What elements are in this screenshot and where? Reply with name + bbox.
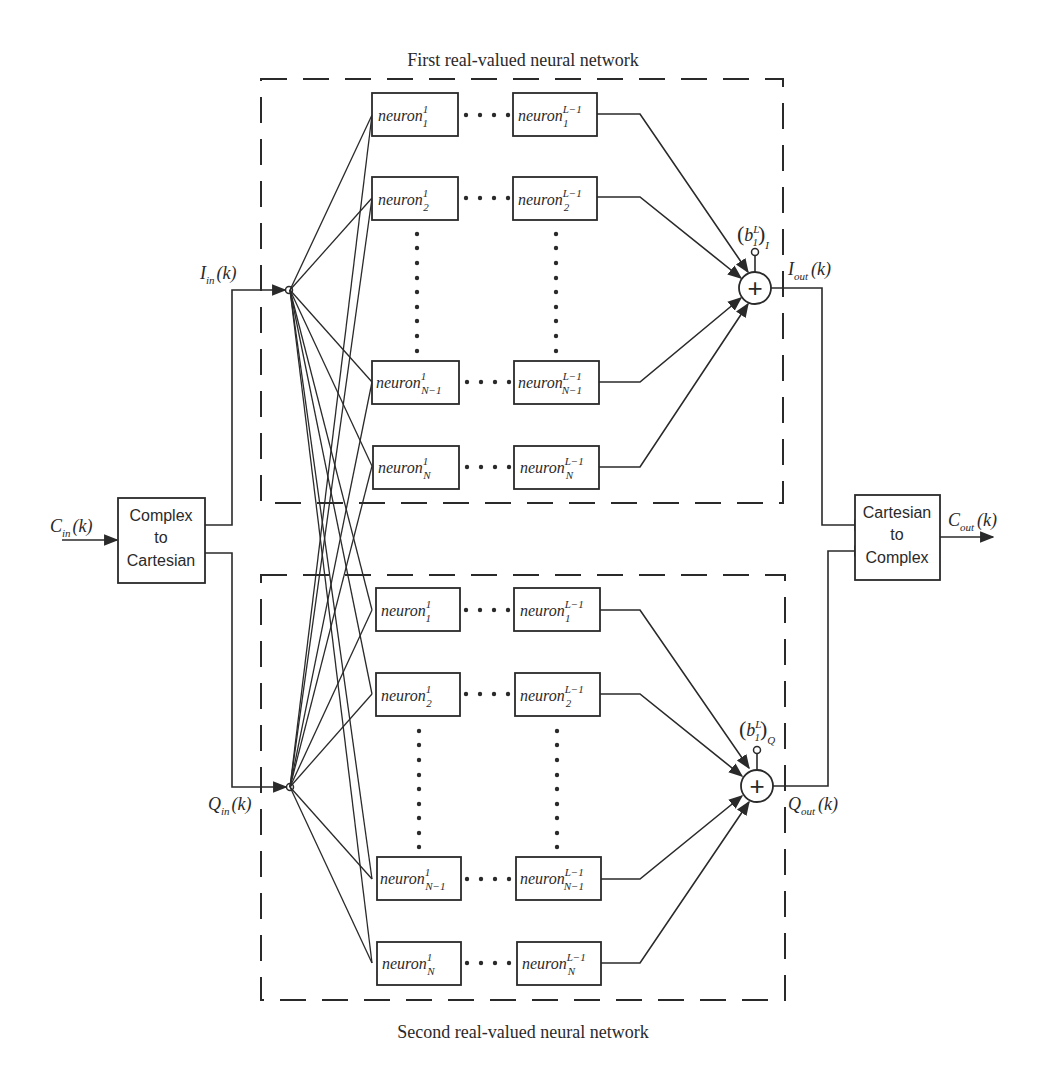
- second-net-row-1: neuron11 neuronL−11: [376, 588, 600, 631]
- cartesian-to-complex-line3: Complex: [865, 549, 928, 566]
- i-in-label: Iin(k): [199, 263, 237, 286]
- second-network-boundary: [261, 575, 785, 1000]
- input-section: Cin(k) Complex to Cartesian Iin(k) Qin(k…: [50, 263, 294, 817]
- i-path: [205, 290, 285, 525]
- first-net-row-n-minus-1: neuron1N−1 neuronL−1N−1: [372, 361, 599, 404]
- q-out-path: [773, 551, 867, 786]
- second-net-row-n: neuron1N neuronL−1N: [377, 942, 601, 985]
- first-net-row-2: neuron12 neuronL−12: [372, 177, 597, 220]
- cartesian-to-complex-line2: to: [890, 526, 903, 543]
- bias-node-i: [752, 249, 759, 256]
- c-in-label: Cin(k): [50, 516, 93, 539]
- output-section: Cartesian to Complex Cout(k): [855, 495, 997, 580]
- caption-first-network: First real-valued neural network: [407, 50, 638, 70]
- complex-to-cartesian-line3: Cartesian: [127, 552, 195, 569]
- vertical-ellipsis: [417, 729, 559, 849]
- c-out-label: Cout(k): [948, 510, 997, 533]
- first-net-row-n: neuron1N neuronL−1N: [373, 446, 599, 489]
- second-net-row-2: neuron12 neuronL−12: [376, 673, 600, 716]
- first-network-boundary: [261, 79, 783, 503]
- second-network: neuron11 neuronL−11 neuron12 neuronL−12 …: [376, 551, 867, 985]
- bias-q-label: (bL1)Q: [739, 716, 775, 746]
- second-net-row-n-minus-1: neuron1N−1 neuronL−1N−1: [377, 857, 601, 900]
- complex-to-cartesian-line1: Complex: [129, 507, 192, 524]
- q-out-label: Qout(k): [788, 794, 838, 817]
- first-network: neuron11 neuronL−11 neuron12 neuronL−12 …: [372, 93, 867, 525]
- first-net-row-1: neuron11 neuronL−11: [372, 93, 597, 136]
- q-in-label: Qin(k): [208, 794, 252, 817]
- plus-icon: +: [749, 771, 764, 801]
- complex-to-cartesian-line2: to: [154, 529, 167, 546]
- plus-icon: +: [747, 273, 762, 303]
- vertical-ellipsis: [415, 232, 558, 353]
- complex-valued-neural-network-diagram: First real-valued neural network Second …: [0, 0, 1052, 1083]
- bias-i-label: (bL1)I: [737, 221, 770, 251]
- bias-node-q: [754, 747, 761, 754]
- i-out-label: Iout(k): [787, 259, 831, 282]
- cartesian-to-complex-line1: Cartesian: [863, 504, 931, 521]
- q-path: [205, 553, 286, 787]
- fan-out-connections: [290, 115, 372, 963]
- caption-second-network: Second real-valued neural network: [397, 1022, 648, 1042]
- i-out-path: [771, 288, 867, 525]
